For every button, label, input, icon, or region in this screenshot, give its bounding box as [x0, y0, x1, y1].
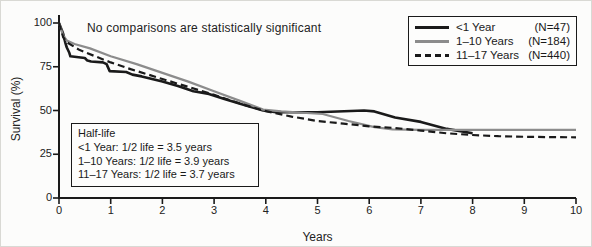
half-life-line-1: <1 Year: 1/2 life = 3.5 years — [78, 141, 252, 155]
y-tick-label: 100 — [22, 16, 52, 28]
x-tick-label: 2 — [149, 204, 175, 216]
y-tick-label: 0 — [22, 191, 52, 203]
x-axis-label: Years — [59, 230, 576, 244]
legend-label: 11–17 Years — [456, 49, 528, 62]
x-tick-label: 6 — [356, 204, 382, 216]
x-tick-label: 0 — [46, 204, 72, 216]
x-tick-label: 10 — [563, 204, 589, 216]
y-axis-label: Survival (%) — [9, 49, 23, 169]
legend-box: <1 Year (N=47) 1–10 Years (N=184) 11–17 … — [408, 16, 577, 66]
x-tick-label: 8 — [460, 204, 486, 216]
survival-chart: No comparisons are statistically signifi… — [0, 0, 592, 247]
y-tick-label: 75 — [22, 60, 52, 72]
dashed-black-line-icon — [415, 54, 449, 57]
x-tick-label: 1 — [98, 204, 124, 216]
y-tick-label: 25 — [22, 147, 52, 159]
legend-label: 1–10 Years — [456, 35, 528, 48]
x-tick-label: 9 — [511, 204, 537, 216]
legend-label: <1 Year — [456, 21, 535, 34]
legend-item-11-17-years: 11–17 Years (N=440) — [415, 49, 570, 62]
legend-count: (N=47) — [535, 21, 570, 34]
legend-item-1-10-years: 1–10 Years (N=184) — [415, 35, 570, 48]
significance-annotation: No comparisons are statistically signifi… — [87, 21, 321, 35]
x-tick-label: 5 — [305, 204, 331, 216]
half-life-box: Half-life <1 Year: 1/2 life = 3.5 years … — [71, 123, 259, 187]
solid-black-line-icon — [415, 26, 449, 29]
half-life-line-3: 11–17 Years: 1/2 life = 3.7 years — [78, 168, 252, 182]
legend-item-under-1-year: <1 Year (N=47) — [415, 21, 570, 34]
legend-count: (N=184) — [528, 35, 570, 48]
half-life-title: Half-life — [78, 127, 252, 141]
half-life-line-2: 1–10 Years: 1/2 life = 3.9 years — [78, 155, 252, 169]
y-tick-label: 50 — [22, 104, 52, 116]
legend-count: (N=440) — [528, 49, 570, 62]
x-tick-label: 3 — [201, 204, 227, 216]
x-tick-label: 4 — [253, 204, 279, 216]
x-tick-label: 7 — [408, 204, 434, 216]
solid-gray-line-icon — [415, 40, 449, 43]
